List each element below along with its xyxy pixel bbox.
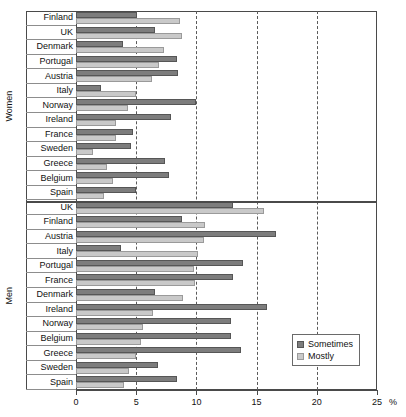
bar-mostly-france — [76, 135, 116, 141]
legend: Sometimes Mostly — [292, 334, 360, 366]
bar-pair — [76, 55, 377, 70]
bar-row: Italy — [26, 84, 377, 99]
bar-pair — [76, 201, 377, 216]
bar-pair — [76, 215, 377, 230]
category-label-portugal: Portugal — [26, 259, 76, 274]
x-tick-label-0: 0 — [73, 397, 78, 407]
bar-mostly-finland — [76, 18, 180, 24]
bar-row: France — [26, 273, 377, 288]
bar-mostly-norway — [76, 105, 128, 111]
bar-row: Norway — [26, 98, 377, 113]
bar-chart: FinlandUKDenmarkPortugalAustriaItalyNorw… — [0, 0, 406, 417]
category-label-spain: Spain — [26, 186, 76, 201]
x-tick-label-5: 5 — [134, 397, 139, 407]
bar-mostly-belgium — [76, 178, 113, 184]
bar-pair — [76, 128, 377, 143]
x-tick-15 — [257, 390, 258, 395]
bar-mostly-austria — [76, 237, 204, 243]
bar-row: Finland — [26, 215, 377, 230]
category-label-italy: Italy — [26, 84, 76, 99]
bar-pair — [76, 273, 377, 288]
bar-pair — [76, 259, 377, 274]
bar-pair — [76, 230, 377, 245]
category-label-sweden: Sweden — [26, 361, 76, 376]
bar-mostly-greece — [76, 164, 107, 170]
category-label-ireland: Ireland — [26, 113, 76, 128]
bar-mostly-italy — [76, 251, 198, 257]
bar-pair — [76, 317, 377, 332]
bar-row: Belgium — [26, 171, 377, 186]
legend-swatch-mostly-icon — [297, 353, 304, 360]
bar-row: Finland — [26, 11, 377, 26]
category-label-uk: UK — [26, 26, 76, 41]
bar-pair — [76, 244, 377, 259]
bar-row: Spain — [26, 375, 377, 390]
bar-mostly-austria — [76, 76, 152, 82]
bar-row: Spain — [26, 186, 377, 201]
category-label-finland: Finland — [26, 215, 76, 230]
bar-mostly-portugal — [76, 266, 194, 272]
category-label-belgium: Belgium — [26, 332, 76, 347]
x-axis-unit-label: % — [389, 397, 397, 407]
bar-pair — [76, 142, 377, 157]
legend-item-sometimes: Sometimes — [297, 338, 353, 350]
x-tick-25 — [377, 390, 378, 395]
bar-mostly-spain — [76, 193, 104, 199]
bar-pair — [76, 186, 377, 201]
bar-mostly-ireland — [76, 310, 153, 316]
bar-row: UK — [26, 26, 377, 41]
bar-row: Greece — [26, 157, 377, 172]
bar-row: Italy — [26, 244, 377, 259]
legend-swatch-sometimes-icon — [297, 341, 304, 348]
group-label-women: Women — [2, 11, 16, 201]
bar-row: Denmark — [26, 40, 377, 55]
category-label-greece: Greece — [26, 346, 76, 361]
category-label-france: France — [26, 273, 76, 288]
legend-label-mostly: Mostly — [308, 350, 334, 362]
bar-mostly-italy — [76, 91, 136, 97]
legend-item-mostly: Mostly — [297, 350, 353, 362]
bar-pair — [76, 288, 377, 303]
category-label-austria: Austria — [26, 230, 76, 245]
category-label-uk: UK — [26, 201, 76, 216]
bar-mostly-norway — [76, 324, 143, 330]
group-label-men: Men — [2, 201, 16, 391]
bar-row: Denmark — [26, 288, 377, 303]
bar-pair — [76, 98, 377, 113]
bar-row: Norway — [26, 317, 377, 332]
bar-pair — [76, 157, 377, 172]
x-tick-label-20: 20 — [312, 397, 322, 407]
bar-pair — [76, 84, 377, 99]
bar-mostly-uk — [76, 208, 264, 214]
bar-pair — [76, 69, 377, 84]
bar-row: Portugal — [26, 55, 377, 70]
category-label-sweden: Sweden — [26, 142, 76, 157]
bar-mostly-sweden — [76, 368, 129, 374]
bar-pair — [76, 171, 377, 186]
bar-mostly-spain — [76, 382, 124, 388]
bar-mostly-belgium — [76, 339, 141, 345]
bar-row: France — [26, 128, 377, 143]
x-axis-line — [76, 390, 377, 391]
bar-mostly-denmark — [76, 47, 164, 53]
bar-mostly-france — [76, 280, 195, 286]
bar-pair — [76, 113, 377, 128]
bar-row: Portugal — [26, 259, 377, 274]
group-divider — [26, 201, 377, 203]
legend-label-sometimes: Sometimes — [308, 338, 353, 350]
bar-row: Austria — [26, 230, 377, 245]
bar-mostly-portugal — [76, 62, 159, 68]
bar-mostly-finland — [76, 222, 205, 228]
bar-pair — [76, 375, 377, 390]
category-label-spain: Spain — [26, 375, 76, 390]
bar-mostly-uk — [76, 33, 182, 39]
x-tick-5 — [136, 390, 137, 395]
category-label-italy: Italy — [26, 244, 76, 259]
x-tick-10 — [196, 390, 197, 395]
bar-row: Sweden — [26, 142, 377, 157]
category-label-denmark: Denmark — [26, 40, 76, 55]
bar-pair — [76, 11, 377, 26]
category-label-norway: Norway — [26, 98, 76, 113]
bar-mostly-greece — [76, 353, 136, 359]
x-tick-label-10: 10 — [191, 397, 201, 407]
